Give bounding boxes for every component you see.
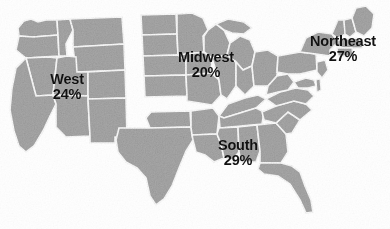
region-label-west[interactable]: West 24% bbox=[30, 72, 104, 102]
region-label-midwest[interactable]: Midwest 20% bbox=[163, 50, 249, 80]
region-name-northeast: Northeast bbox=[298, 34, 388, 49]
region-value-northeast: 27% bbox=[298, 49, 388, 64]
region-name-west: West bbox=[30, 72, 104, 87]
region-value-midwest: 20% bbox=[163, 65, 249, 80]
region-value-west: 24% bbox=[30, 87, 104, 102]
region-value-south: 29% bbox=[198, 153, 278, 168]
region-name-midwest: Midwest bbox=[163, 50, 249, 65]
us-region-percentage-map: West 24% Midwest 20% Northeast 27% South… bbox=[0, 0, 390, 229]
region-name-south: South bbox=[198, 138, 278, 153]
region-label-south[interactable]: South 29% bbox=[198, 138, 278, 168]
region-label-northeast[interactable]: Northeast 27% bbox=[298, 34, 388, 64]
